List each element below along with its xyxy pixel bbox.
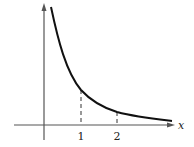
tick-label-2: 2: [114, 130, 121, 143]
tick-label-1: 1: [78, 130, 85, 143]
function-graph: 1 2 x: [0, 0, 194, 147]
curve: [51, 7, 172, 121]
x-axis-arrow-icon: [167, 123, 175, 128]
x-axis-label: x: [178, 119, 185, 132]
y-axis-arrow-icon: [42, 3, 47, 11]
